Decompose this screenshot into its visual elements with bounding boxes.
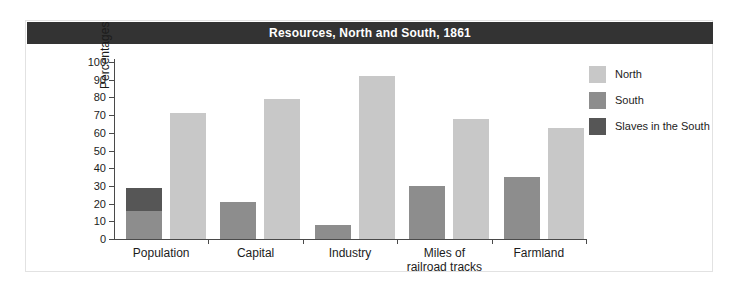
- bar-south: [126, 188, 162, 239]
- legend-label: North: [615, 68, 642, 80]
- bar-south: [315, 225, 351, 239]
- bar-segment-south: [315, 225, 351, 239]
- legend-swatch: [589, 118, 606, 135]
- y-axis-tick-label: 40: [76, 163, 106, 174]
- chart-figure: Resources, North and South, 1861 0102030…: [25, 20, 713, 272]
- legend-label: Slaves in the South: [615, 120, 710, 132]
- x-axis-category-label: Farmland: [469, 246, 609, 260]
- x-axis-category-label-line: railroad tracks: [374, 260, 514, 274]
- y-axis-tick-label: 50: [76, 146, 106, 157]
- bar-north: [359, 76, 395, 239]
- x-axis-end-tick: [586, 239, 587, 244]
- y-axis-tick-label: 10: [76, 216, 106, 227]
- bar-segment-north: [359, 76, 395, 239]
- page-title: Resources, North and South, 1861: [269, 26, 471, 40]
- y-axis-tick: [109, 239, 114, 240]
- y-axis-tick: [109, 204, 114, 205]
- legend-item: South: [589, 87, 714, 113]
- bar-group: [126, 62, 206, 239]
- bar-segment-south: [126, 211, 162, 239]
- y-axis-tick-label: 60: [76, 128, 106, 139]
- x-axis-tick: [492, 239, 493, 244]
- plot-area: 0102030405060708090100 Percentages Popul…: [114, 62, 586, 239]
- bar-north: [264, 99, 300, 239]
- legend-label: South: [615, 94, 644, 106]
- y-axis-tick: [109, 133, 114, 134]
- y-axis-tick: [109, 151, 114, 152]
- bar-group: [504, 62, 584, 239]
- y-axis-tick: [109, 221, 114, 222]
- x-axis-tick: [303, 239, 304, 244]
- bar-segment-north: [170, 113, 206, 239]
- bar-north: [453, 119, 489, 239]
- legend-item: North: [589, 61, 714, 87]
- bar-segment-north: [453, 119, 489, 239]
- y-axis-title: Percentages: [98, 0, 112, 89]
- legend-swatch: [589, 92, 606, 109]
- bar-south: [409, 186, 445, 239]
- bar-segment-south: [409, 186, 445, 239]
- bar-segment-south: [220, 202, 256, 239]
- y-axis-tick-label: 30: [76, 181, 106, 192]
- y-axis-tick: [109, 168, 114, 169]
- bar-north: [548, 128, 584, 240]
- x-axis-tick: [397, 239, 398, 244]
- x-axis-category-label-line: Farmland: [469, 246, 609, 260]
- legend-swatch: [589, 66, 606, 83]
- y-axis-tick-label: 0: [76, 234, 106, 245]
- legend-item: Slaves in the South: [589, 113, 714, 139]
- x-axis-line: [114, 239, 587, 240]
- chart-legend: NorthSouthSlaves in the South: [589, 61, 714, 139]
- bar-group: [409, 62, 489, 239]
- bar-north: [170, 113, 206, 239]
- y-axis-tick: [109, 186, 114, 187]
- y-axis-tick-label: 70: [76, 110, 106, 121]
- y-axis-line: [114, 59, 115, 240]
- y-axis-tick-label: 20: [76, 199, 106, 210]
- y-axis-tick: [109, 115, 114, 116]
- bar-group: [315, 62, 395, 239]
- y-axis-tick-label: 80: [76, 92, 106, 103]
- bar-south: [504, 177, 540, 239]
- bar-segment-north: [548, 128, 584, 240]
- bar-segment-south: [504, 177, 540, 239]
- bar-group: [220, 62, 300, 239]
- bar-south: [220, 202, 256, 239]
- bar-segment-slaves-in-the-south: [126, 188, 162, 211]
- x-axis-tick: [208, 239, 209, 244]
- bar-segment-north: [264, 99, 300, 239]
- y-axis-tick: [109, 97, 114, 98]
- chart-title-bar: Resources, North and South, 1861: [27, 22, 713, 44]
